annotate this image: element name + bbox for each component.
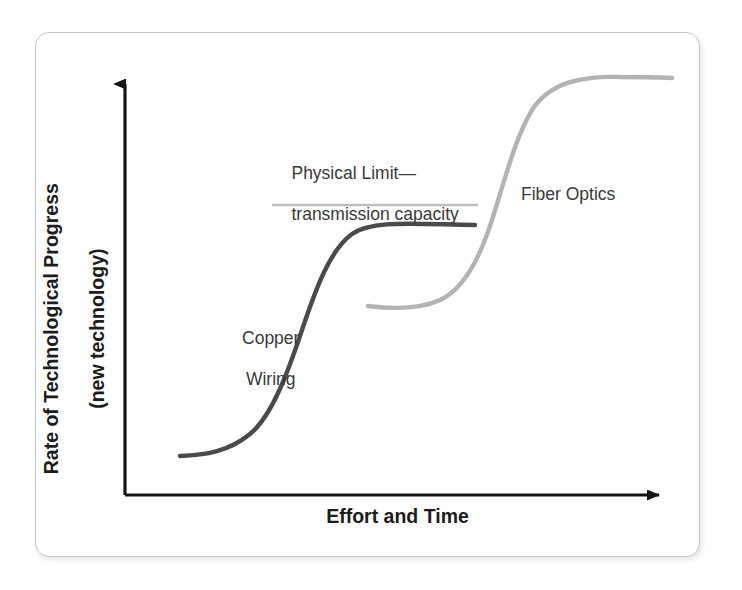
series-label-fiber-optics: Fiber Optics bbox=[521, 184, 615, 205]
series-label-copper-line1: Copper bbox=[242, 328, 299, 348]
series-label-copper-line2: Wiring bbox=[246, 369, 296, 389]
y-axis-title-line1: Rate of Technological Progress bbox=[40, 183, 62, 474]
annotation-physical-limit: Physical Limit— transmission capacity bbox=[272, 142, 502, 245]
annotation-physical-limit-line1: Physical Limit— bbox=[291, 163, 415, 183]
x-axis-title: Effort and Time bbox=[125, 505, 670, 528]
annotation-physical-limit-line2: transmission capacity bbox=[291, 204, 458, 224]
y-axis-title-line2: (new technology) bbox=[86, 249, 108, 409]
figure-root: Rate of Technological Progress (new tech… bbox=[0, 0, 742, 590]
y-axis-title: Rate of Technological Progress (new tech… bbox=[17, 160, 132, 520]
series-label-copper-wiring: Copper Wiring bbox=[200, 307, 322, 410]
